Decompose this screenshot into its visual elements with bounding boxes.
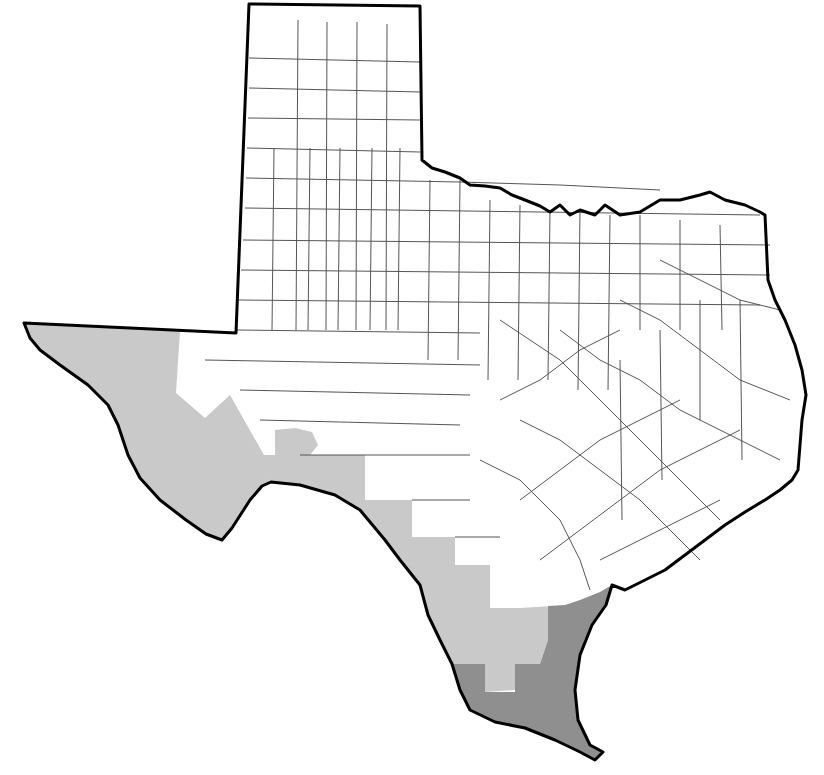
texas-county-map: [0, 0, 824, 775]
